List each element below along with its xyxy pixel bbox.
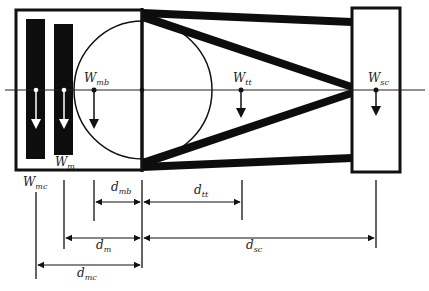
label-W-mc: Wmc bbox=[23, 175, 48, 191]
weight-tt bbox=[236, 88, 246, 119]
weight-diagram: Wmb Wtt Wsc Wm Wmc dmb dtt dm dsc dmc bbox=[0, 0, 429, 291]
label-W-tt: Wtt bbox=[233, 71, 253, 87]
label-d-m: dm bbox=[96, 238, 112, 254]
dimension-arrows bbox=[38, 202, 374, 265]
label-d-tt: dtt bbox=[194, 183, 209, 199]
weight-tt-arrow-icon bbox=[236, 108, 246, 118]
pivot-point bbox=[140, 88, 145, 93]
label-W-mb: Wmb bbox=[84, 71, 109, 87]
weight-mb-arrow-icon bbox=[89, 119, 99, 129]
label-d-mb: dmb bbox=[111, 180, 131, 196]
label-W-m: Wm bbox=[55, 155, 75, 171]
label-d-mc: dmc bbox=[77, 266, 97, 282]
label-d-sc: dsc bbox=[246, 238, 263, 254]
weight-mb bbox=[89, 88, 99, 130]
